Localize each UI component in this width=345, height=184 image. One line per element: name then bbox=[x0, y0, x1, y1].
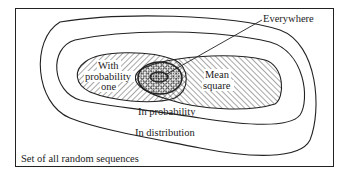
with-probability-one-label-1: With bbox=[98, 60, 119, 71]
in-distribution-label: In distribution bbox=[135, 127, 196, 138]
everywhere-label: Everywhere bbox=[263, 13, 314, 24]
with-probability-one-label-3: one bbox=[101, 81, 117, 92]
mean-square-label-1: Mean bbox=[205, 69, 230, 80]
everywhere-region bbox=[150, 72, 168, 82]
mean-square-label-2: square bbox=[203, 80, 231, 91]
convergence-diagram: Everywhere With probability one Mean squ… bbox=[0, 0, 345, 184]
in-probability-label: In probability bbox=[138, 106, 196, 117]
universe-label: Set of all random sequences bbox=[21, 153, 139, 164]
